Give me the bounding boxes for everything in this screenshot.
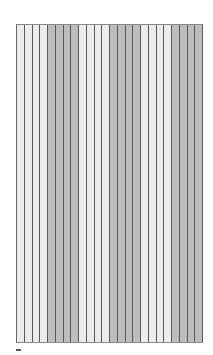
stripe-dark bbox=[48, 25, 56, 342]
corner-mark bbox=[16, 349, 21, 351]
stripe-dark bbox=[180, 25, 188, 342]
stripe-light bbox=[141, 25, 149, 342]
stripe-dark bbox=[118, 25, 126, 342]
stripe-dark bbox=[56, 25, 64, 342]
stripe-dark bbox=[64, 25, 72, 342]
stripe-dark bbox=[110, 25, 118, 342]
stripe-dark bbox=[126, 25, 134, 342]
stripe-light bbox=[25, 25, 33, 342]
stripe-light bbox=[95, 25, 103, 342]
stripe-dark bbox=[172, 25, 180, 342]
stripe-light bbox=[17, 25, 25, 342]
stripe-light bbox=[33, 25, 41, 342]
stripe-dark bbox=[71, 25, 79, 342]
stripe-light bbox=[149, 25, 157, 342]
stripe-dark bbox=[188, 25, 196, 342]
stripe-light bbox=[164, 25, 172, 342]
stripe-dark bbox=[133, 25, 141, 342]
striped-panel bbox=[16, 24, 203, 343]
stripe-light bbox=[79, 25, 87, 342]
stripe-light bbox=[40, 25, 48, 342]
stripe-light bbox=[87, 25, 95, 342]
stripe-dark bbox=[195, 25, 203, 342]
stripe-light bbox=[102, 25, 110, 342]
stripe-light bbox=[157, 25, 165, 342]
